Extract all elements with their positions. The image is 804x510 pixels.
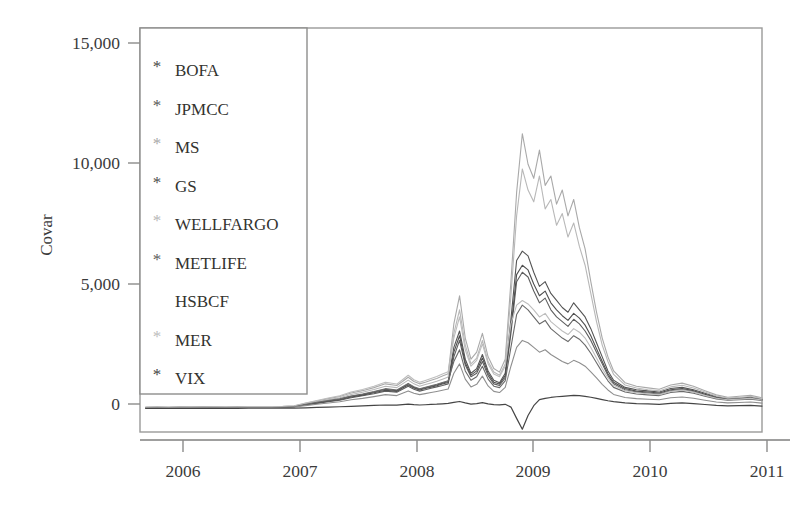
- x-tick-label: 2011: [750, 461, 784, 481]
- legend-marker-vix: *: [153, 365, 162, 384]
- legend-box: [140, 28, 307, 394]
- legend-label-ms: MS: [175, 138, 200, 157]
- legend-marker-bofa: *: [153, 57, 162, 76]
- series-line-vix: [146, 395, 762, 429]
- y-axis-title: Covar: [37, 214, 56, 256]
- legend-marker-metlife: *: [153, 250, 162, 269]
- y-tick-label: 5,000: [81, 274, 121, 294]
- x-tick-label: 2009: [516, 461, 551, 481]
- legend-label-vix: VIX: [175, 369, 205, 388]
- covar-line-chart: 15,000 10,000 5,000 0 Covar 2006 2007 20…: [0, 0, 804, 510]
- x-tick-label: 2006: [166, 461, 201, 481]
- x-tick-label: 2008: [400, 461, 435, 481]
- y-tick-label: 15,000: [72, 33, 120, 53]
- legend-label-wellfargo: WELLFARGO: [175, 215, 279, 234]
- y-tick-label: 10,000: [72, 153, 120, 173]
- chart-figure: 15,000 10,000 5,000 0 Covar 2006 2007 20…: [0, 0, 804, 510]
- x-tick-label: 2007: [283, 461, 318, 481]
- legend-marker-mer: *: [153, 327, 162, 346]
- y-axis: 15,000 10,000 5,000 0: [72, 33, 140, 414]
- legend-marker-gs: *: [153, 173, 162, 192]
- legend-marker-ms: *: [153, 134, 162, 153]
- legend-label-jpmcc: JPMCC: [175, 100, 229, 119]
- legend-label-hsbcf: HSBCF: [175, 292, 229, 311]
- y-tick-label: 0: [111, 394, 120, 414]
- legend-marker-wellfargo: *: [153, 211, 162, 230]
- legend-label-metlife: METLIFE: [175, 254, 247, 273]
- legend-label-gs: GS: [175, 177, 197, 196]
- legend-label-mer: MER: [175, 331, 213, 350]
- x-axis: 2006 2007 2008 2009 2010 2011: [140, 440, 790, 481]
- legend-marker-jpmcc: *: [153, 96, 162, 115]
- legend-label-bofa: BOFA: [175, 61, 220, 80]
- x-tick-label: 2010: [633, 461, 668, 481]
